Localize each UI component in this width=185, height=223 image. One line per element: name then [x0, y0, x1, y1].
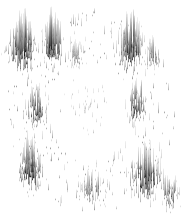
- figure-container: [0, 0, 185, 223]
- spike-density-plot-canvas: [0, 0, 185, 223]
